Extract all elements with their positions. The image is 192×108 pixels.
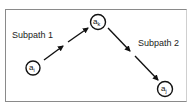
edge-ak-aj [108,28,158,80]
node-aj: aj [158,82,173,97]
node-ak: ak [91,15,106,30]
subpath1-label: Subpath 1 [12,30,53,40]
path-diagram: ai ak aj Subpath 1 Subpath 2 [0,0,192,108]
node-ai: ai [26,61,40,75]
subpath2-label: Subpath 2 [138,38,179,48]
